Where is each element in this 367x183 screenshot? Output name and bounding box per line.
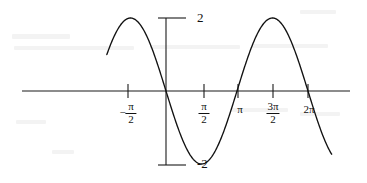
fraction-numerator: π <box>127 101 135 112</box>
x-axis-label-three-half-pi: 3π 2 <box>266 101 279 125</box>
fraction-denominator: 2 <box>269 114 277 125</box>
fraction-numerator: π <box>200 101 208 112</box>
x-axis-label-half-pi: π 2 <box>199 101 210 125</box>
y-axis-label-2: 2 <box>197 11 204 24</box>
fraction-numerator: 3π <box>266 101 279 112</box>
fraction-denominator: 2 <box>200 114 208 125</box>
x-axis-label-neg-half-pi: − π 2 <box>119 101 136 125</box>
fraction: π 2 <box>199 101 210 125</box>
sine-curve-figure: 2 -2 − π 2 π 2 π 3π 2 2π <box>0 0 367 183</box>
fraction: 3π 2 <box>266 101 279 125</box>
fraction: π 2 <box>126 101 137 125</box>
y-axis-label-neg-2: -2 <box>197 157 208 170</box>
x-axis-label-two-pi: 2π <box>303 103 314 115</box>
plot-canvas <box>0 0 367 183</box>
minus-sign: − <box>119 106 125 118</box>
fraction-denominator: 2 <box>127 114 135 125</box>
x-axis-label-pi: π <box>237 103 243 115</box>
